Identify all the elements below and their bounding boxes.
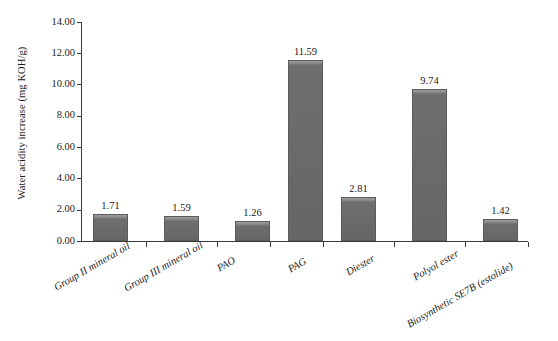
bar-slot: 1.26 (235, 22, 270, 241)
x-category-label-pao: PAO (215, 254, 238, 274)
bar-value-label: 1.42 (471, 205, 531, 216)
bar-value-label: 2.81 (329, 183, 389, 194)
x-category-label-polyol-ester: Polyol ester (411, 248, 461, 284)
x-tick-mark (270, 242, 271, 247)
bar-value-label: 1.59 (152, 202, 212, 213)
bar-value-label: 11.59 (276, 46, 336, 57)
bar (412, 89, 447, 241)
y-axis-tick-labels: 14.00 12.00 10.00 8.00 6.00 4.00 2.00 0.… (33, 0, 75, 341)
bar-value-label: 1.26 (223, 207, 283, 218)
bar-slot: 1.71 (93, 22, 128, 241)
y-tick-label: 0.00 (33, 236, 75, 246)
x-tick-mark (528, 242, 529, 247)
x-tick-mark (394, 242, 395, 247)
x-axis-line (81, 241, 528, 242)
y-tick-label: 14.00 (33, 17, 75, 27)
x-tick-mark (146, 242, 147, 247)
bar (235, 221, 270, 241)
bar-value-label: 9.74 (400, 75, 460, 86)
y-tick-label: 12.00 (33, 48, 75, 58)
x-category-label-diester: Diester (344, 253, 377, 279)
y-tick-label: 4.00 (33, 173, 75, 183)
bar (164, 216, 199, 241)
bar (341, 197, 376, 241)
bar-slot: 1.59 (164, 22, 199, 241)
x-category-label-pag: PAG (286, 255, 309, 275)
y-tick-label: 2.00 (33, 204, 75, 214)
bar-chart: Water acidity increase (mg KOH/g) 14.00 … (0, 0, 558, 341)
x-category-label-group-iii-mineral-oil: Group III mineral oil (122, 239, 205, 294)
bar (93, 214, 128, 241)
x-tick-mark (217, 242, 218, 247)
y-tick-label: 8.00 (33, 110, 75, 120)
plot-area: 1.71 1.59 1.26 11.59 2.81 9.74 1.42 (82, 22, 528, 241)
bar-slot: 1.42 (483, 22, 518, 241)
y-tick-label: 10.00 (33, 79, 75, 89)
bar (483, 219, 518, 241)
bar (288, 60, 323, 241)
bar-slot: 11.59 (288, 22, 323, 241)
bar-slot: 2.81 (341, 22, 376, 241)
x-tick-mark (323, 242, 324, 247)
bar-slot: 9.74 (412, 22, 447, 241)
y-tick-label: 6.00 (33, 142, 75, 152)
bar-value-label: 1.71 (81, 200, 141, 211)
x-tick-mark (465, 242, 466, 247)
